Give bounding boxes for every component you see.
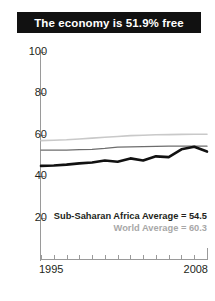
economic-freedom-chart: The economy is 51.9% free 10080604020 19… — [0, 0, 215, 301]
x-axis-end-label: 2008 — [184, 263, 208, 275]
x-tick — [207, 255, 208, 259]
chart-title-banner: The economy is 51.9% free — [17, 12, 201, 33]
chart-legend: Sub-Saharan Africa Average = 54.5 World … — [41, 211, 208, 234]
x-axis-start-label: 1995 — [39, 263, 63, 275]
legend-region-average: Sub-Saharan Africa Average = 54.5 — [41, 211, 208, 223]
page-title: The economy is 51.9% free — [34, 17, 184, 29]
x-axis-line — [41, 259, 208, 260]
series-line — [41, 134, 207, 140]
legend-world-average: World Average = 60.3 — [41, 223, 208, 235]
